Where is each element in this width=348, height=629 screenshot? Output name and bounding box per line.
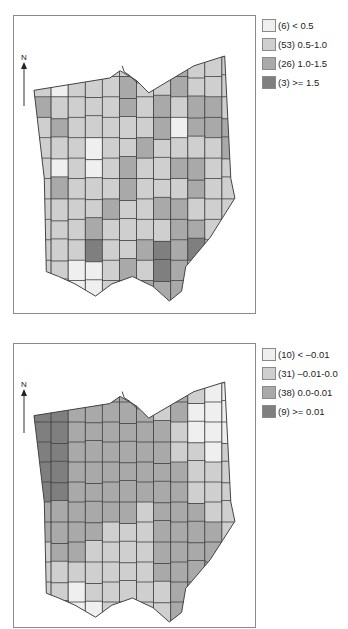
county	[137, 602, 154, 624]
county	[154, 157, 171, 179]
county	[137, 422, 154, 444]
county	[68, 56, 85, 78]
county	[171, 138, 188, 160]
county	[51, 500, 68, 522]
county	[119, 480, 136, 502]
county	[171, 117, 188, 139]
county	[119, 602, 136, 624]
county	[154, 95, 171, 117]
county	[205, 562, 222, 584]
county	[171, 442, 188, 464]
county	[171, 402, 188, 424]
county	[102, 502, 119, 524]
county	[188, 238, 205, 260]
county	[137, 240, 154, 262]
legend-swatch	[262, 76, 276, 89]
county	[188, 560, 205, 582]
legend-swatch	[262, 367, 276, 380]
county	[154, 117, 171, 139]
county	[85, 116, 102, 138]
county	[222, 239, 239, 261]
legend-swatch	[262, 57, 276, 70]
county	[205, 281, 222, 303]
county	[119, 380, 136, 402]
county	[188, 421, 205, 443]
county	[154, 442, 171, 464]
county	[68, 158, 85, 180]
county	[34, 56, 51, 78]
county	[34, 502, 51, 524]
county	[34, 382, 51, 404]
county	[102, 482, 119, 504]
county	[222, 400, 239, 422]
county	[154, 197, 171, 219]
county	[102, 602, 119, 624]
legend-item: (38) 0.0-0.01	[262, 383, 338, 402]
county	[171, 562, 188, 584]
county	[34, 199, 51, 221]
county	[102, 402, 119, 424]
county	[102, 542, 119, 564]
county	[51, 279, 68, 301]
county	[222, 221, 239, 243]
county	[51, 561, 68, 583]
county	[154, 219, 171, 241]
county	[34, 442, 51, 464]
county	[188, 482, 205, 504]
county	[85, 76, 102, 98]
county	[171, 219, 188, 241]
county	[205, 260, 222, 282]
county	[222, 261, 239, 283]
county	[205, 179, 222, 201]
county	[171, 240, 188, 262]
legend-item: (10) < –0.01	[262, 345, 338, 364]
legend-label: (26) 1.0-1.5	[278, 58, 327, 69]
county	[102, 442, 119, 464]
map-frame-top: N	[13, 15, 256, 314]
county	[68, 117, 85, 139]
county	[188, 382, 205, 404]
county	[205, 502, 222, 524]
county	[188, 56, 205, 78]
county	[85, 540, 102, 562]
county	[34, 179, 51, 201]
legend-label: (6) < 0.5	[278, 20, 314, 31]
county	[188, 582, 205, 604]
legend-swatch	[262, 19, 276, 32]
county	[222, 600, 239, 622]
county	[171, 522, 188, 544]
county	[222, 522, 239, 544]
legend-label: (31) –0.01-0.0	[278, 368, 338, 379]
county	[51, 600, 68, 622]
county	[34, 562, 51, 584]
legend-item: (6) < 0.5	[262, 16, 327, 35]
county	[85, 178, 102, 200]
county	[188, 604, 205, 626]
county	[137, 138, 154, 160]
county	[222, 561, 239, 583]
county	[205, 462, 222, 484]
county	[119, 541, 136, 563]
county	[154, 55, 171, 77]
county	[137, 402, 154, 424]
county	[34, 542, 51, 564]
county	[68, 199, 85, 221]
county	[51, 383, 68, 405]
county	[68, 179, 85, 201]
county	[188, 96, 205, 118]
county	[222, 137, 239, 159]
county	[34, 602, 51, 624]
legend-swatch	[262, 386, 276, 399]
county	[222, 544, 239, 566]
county	[102, 382, 119, 404]
county	[137, 462, 154, 484]
county	[205, 422, 222, 444]
county	[119, 502, 136, 524]
county	[51, 522, 68, 544]
county	[51, 137, 68, 159]
legend-item: (53) 0.5-1.0	[262, 35, 327, 54]
county	[34, 522, 51, 544]
county	[137, 522, 154, 544]
legend-label: (3) >= 1.5	[278, 77, 319, 88]
county	[137, 502, 154, 524]
